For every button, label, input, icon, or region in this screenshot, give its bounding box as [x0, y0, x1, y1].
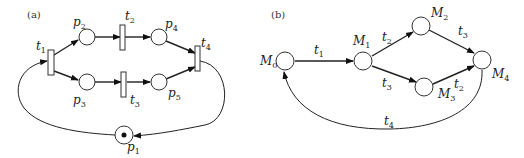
- marking-m1[interactable]: [354, 52, 372, 70]
- label-p4: p4: [165, 17, 178, 33]
- place-p5[interactable]: [151, 74, 167, 90]
- edge-m1-m2: [372, 32, 413, 56]
- transition-t3[interactable]: [121, 72, 126, 97]
- panel-a-petri-net: (a) t1 p2 t2 p4 t4 p3 t3 p5 p1: [18, 9, 224, 156]
- marking-m4[interactable]: [473, 51, 491, 69]
- label-edge-t4: t4: [384, 114, 394, 130]
- marking-m0[interactable]: [276, 52, 294, 70]
- arc-p1-t1: [18, 61, 115, 135]
- diagram-canvas: (a) t1 p2 t2 p4 t4 p3 t3 p5 p1: [0, 0, 524, 158]
- label-p1: p1: [127, 140, 140, 156]
- label-edge-t3-lower: t3: [382, 76, 392, 92]
- label-m1: M1: [352, 34, 370, 50]
- transition-t4[interactable]: [195, 46, 200, 71]
- label-t2: t2: [125, 9, 135, 25]
- label-t3: t3: [130, 93, 140, 109]
- place-p2[interactable]: [79, 29, 95, 45]
- panel-b-reachability-graph: (b) M0 M1 M2 M3 M4 t1 t2 t3 t3 t2 t4: [259, 6, 509, 130]
- label-edge-t3-upper: t3: [458, 24, 468, 40]
- label-p3: p3: [73, 93, 86, 109]
- edge-m1-m3: [372, 66, 416, 82]
- place-p3[interactable]: [79, 74, 95, 90]
- place-p4[interactable]: [151, 29, 167, 45]
- label-p5: p5: [168, 86, 181, 102]
- label-t1: t1: [36, 39, 46, 55]
- label-m4: M4: [491, 67, 509, 83]
- marking-m2[interactable]: [412, 17, 430, 35]
- arc-t1-p2: [54, 40, 78, 55]
- label-p2: p2: [73, 15, 86, 31]
- token-icon: [122, 133, 127, 138]
- panel-a-label: (a): [27, 9, 41, 20]
- transition-t2[interactable]: [120, 25, 125, 50]
- marking-m3[interactable]: [415, 78, 433, 96]
- label-m2: M2: [430, 6, 448, 22]
- transition-t1[interactable]: [48, 50, 54, 75]
- arc-p4-t4: [166, 41, 195, 53]
- label-m3: M3: [437, 87, 455, 103]
- arc-p5-t4: [166, 67, 195, 79]
- label-edge-t2-lower: t2: [454, 77, 464, 93]
- label-m0: M0: [259, 54, 277, 70]
- panel-b-label: (b): [271, 9, 285, 20]
- label-edge-t2-upper: t2: [382, 30, 392, 46]
- label-edge-t1: t1: [314, 43, 324, 59]
- arc-t1-p3: [54, 71, 78, 80]
- label-t4: t4: [201, 36, 211, 52]
